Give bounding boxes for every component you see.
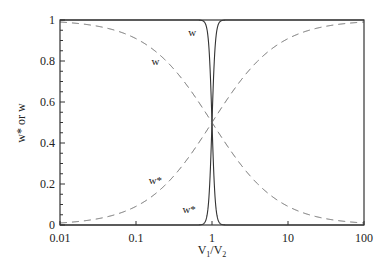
series-dashed-w-star xyxy=(60,22,364,223)
curves xyxy=(60,20,364,225)
curve-label: w* xyxy=(182,203,195,215)
curve-label: w xyxy=(188,26,196,38)
x-axis-slash-v: /V xyxy=(210,243,222,257)
x-axis-title: V1/V2 xyxy=(198,243,227,259)
x-tick-label: 0.1 xyxy=(129,231,144,245)
y-tick-label: 1 xyxy=(49,13,55,27)
y-tick-label: 0.8 xyxy=(40,54,55,68)
y-tick-label: 0.6 xyxy=(40,95,55,109)
y-axis-title: w* or w xyxy=(14,103,28,143)
x-axis-title-v1: V xyxy=(198,243,207,257)
curve-label: w* xyxy=(149,174,162,186)
x-tick-label: 0.01 xyxy=(50,231,71,245)
y-tick-label: 0.4 xyxy=(40,136,55,150)
x-tick-label: 100 xyxy=(355,231,373,245)
ticks: 0.010.111010000.20.40.60.81 xyxy=(40,13,373,245)
curve-labels: www*w* xyxy=(149,26,197,214)
x-axis-sub2: 2 xyxy=(222,250,226,259)
y-tick-label: 0.2 xyxy=(40,177,55,191)
y-tick-label: 0 xyxy=(49,218,55,232)
chart: 0.010.111010000.20.40.60.81 www*w* w* or… xyxy=(0,0,391,274)
x-tick-label: 10 xyxy=(282,231,294,245)
curve-label: w xyxy=(151,55,159,67)
